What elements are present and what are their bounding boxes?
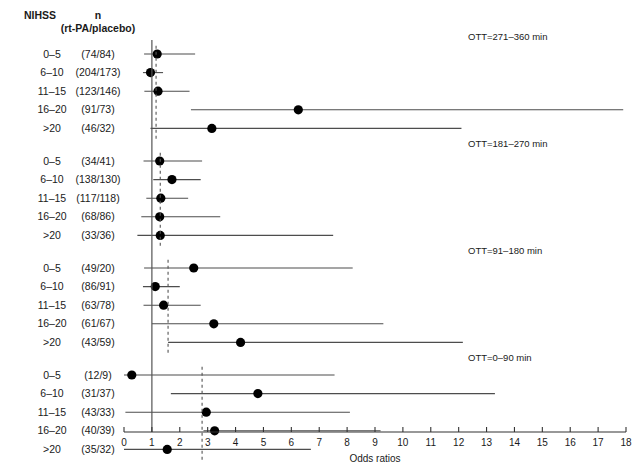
x-axis-tick-label: 1	[149, 437, 155, 448]
point-estimate-marker	[156, 194, 165, 203]
row-nihss: >20	[43, 443, 61, 455]
header-n-sub: (rt-PA/placebo)	[61, 22, 135, 34]
row-nihss: 11–15	[38, 85, 67, 97]
group-label-3: OTT=0–90 min	[468, 352, 532, 363]
point-estimate-marker	[207, 124, 216, 133]
row-nihss: 0–5	[43, 155, 61, 167]
x-axis-title: Odds ratios	[349, 453, 400, 464]
x-axis-tick-label: 3	[205, 437, 211, 448]
x-axis-tick-label: 18	[620, 437, 632, 448]
row-nihss: >20	[43, 336, 61, 348]
row-nihss: 16–20	[37, 317, 66, 329]
row-nihss: 11–15	[38, 299, 67, 311]
row-n: (34/41)	[81, 155, 114, 167]
x-axis-tick-label: 14	[509, 437, 521, 448]
row-nihss: 6–10	[40, 280, 64, 292]
point-estimate-marker	[153, 87, 162, 96]
point-estimate-marker	[167, 175, 176, 184]
x-axis-tick-label: 15	[537, 437, 549, 448]
point-estimate-marker	[153, 49, 162, 58]
point-estimate-marker	[294, 105, 303, 114]
row-n: (43/33)	[81, 406, 114, 418]
x-axis-tick-label: 5	[261, 437, 267, 448]
x-axis-tick-label: 2	[177, 437, 183, 448]
point-estimate-marker	[155, 212, 164, 221]
x-axis-tick-label: 10	[397, 437, 409, 448]
row-nihss: 11–15	[38, 192, 67, 204]
point-estimate-marker	[189, 263, 198, 272]
row-n: (138/130)	[76, 173, 121, 185]
row-n: (61/67)	[81, 317, 114, 329]
row-n: (86/91)	[81, 280, 114, 292]
group-label-1: OTT=181–270 min	[468, 138, 547, 149]
point-estimate-marker	[209, 319, 218, 328]
row-nihss: >20	[43, 229, 61, 241]
x-axis-tick-label: 8	[344, 437, 350, 448]
x-axis-tick-label: 13	[481, 437, 493, 448]
row-n: (63/78)	[81, 299, 114, 311]
row-n: (43/59)	[81, 336, 114, 348]
x-axis-tick-label: 16	[565, 437, 577, 448]
row-nihss: 16–20	[37, 210, 66, 222]
row-n: (35/32)	[81, 443, 114, 455]
row-n: (74/84)	[81, 48, 114, 60]
point-estimate-marker	[146, 68, 155, 77]
point-estimate-marker	[159, 301, 168, 310]
point-estimate-marker	[155, 156, 164, 165]
x-axis-tick-label: 12	[453, 437, 465, 448]
row-nihss: 16–20	[37, 103, 66, 115]
row-n: (91/73)	[81, 103, 114, 115]
header-nihss: NIHSS	[24, 9, 56, 21]
row-n: (123/146)	[76, 85, 121, 97]
x-axis-tick-label: 7	[316, 437, 322, 448]
row-nihss: 6–10	[40, 66, 64, 78]
row-n: (204/173)	[76, 66, 121, 78]
point-estimate-marker	[210, 426, 219, 435]
point-estimate-marker	[163, 445, 172, 454]
x-axis-tick-label: 9	[372, 437, 378, 448]
point-estimate-marker	[202, 408, 211, 417]
row-n: (12/9)	[84, 369, 111, 381]
point-estimate-marker	[236, 338, 245, 347]
group-label-0: OTT=271–360 min	[468, 31, 547, 42]
x-axis-tick-label: 0	[121, 437, 127, 448]
row-n: (117/118)	[76, 192, 119, 204]
row-nihss: 0–5	[43, 262, 61, 274]
row-nihss: 6–10	[40, 387, 64, 399]
header-n: n	[95, 9, 101, 21]
row-n: (68/86)	[81, 210, 114, 222]
row-nihss: 0–5	[43, 48, 61, 60]
point-estimate-marker	[127, 370, 136, 379]
forest-plot: NIHSSn(rt-PA/placebo)OTT=271–360 min0–5(…	[0, 0, 638, 472]
x-axis-tick-label: 11	[426, 437, 437, 448]
x-axis-tick-label: 4	[233, 437, 239, 448]
row-nihss: 6–10	[40, 173, 64, 185]
point-estimate-marker	[253, 389, 262, 398]
row-n: (31/37)	[81, 387, 114, 399]
forest-plot-canvas: NIHSSn(rt-PA/placebo)OTT=271–360 min0–5(…	[0, 0, 638, 472]
row-n: (40/39)	[81, 424, 114, 436]
row-n: (49/20)	[81, 262, 114, 274]
x-axis-tick-label: 6	[289, 437, 295, 448]
row-nihss: >20	[43, 122, 61, 134]
group-label-2: OTT=91–180 min	[468, 245, 542, 256]
row-nihss: 11–15	[38, 406, 67, 418]
row-nihss: 0–5	[43, 369, 61, 381]
x-axis-tick-label: 17	[593, 437, 605, 448]
row-nihss: 16–20	[37, 424, 66, 436]
row-n: (33/36)	[81, 229, 114, 241]
row-n: (46/32)	[81, 122, 114, 134]
